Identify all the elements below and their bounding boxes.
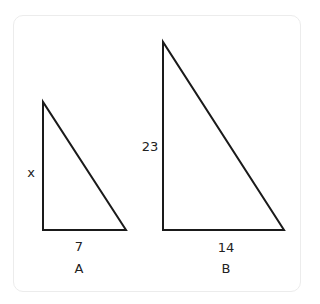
triangle-a-vertical-side-label: x [27, 166, 35, 179]
triangle-b-vertical-side-label: 23 [142, 140, 159, 153]
triangle-a-base-label: 7 [75, 240, 83, 253]
triangle-b-name-label: B [222, 262, 231, 275]
triangle-b [163, 42, 284, 230]
triangle-a-name-label: A [75, 262, 84, 275]
triangle-a [43, 102, 126, 230]
triangle-b-base-label: 14 [218, 241, 235, 254]
